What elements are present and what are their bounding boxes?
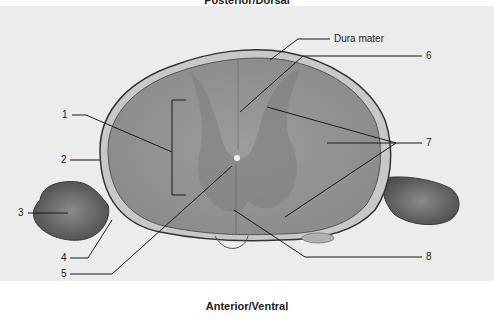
label-5: 5 — [61, 269, 67, 279]
label-1: 1 — [62, 110, 68, 120]
label-8: 8 — [426, 252, 432, 262]
central-canal — [234, 155, 240, 161]
right-dorsal-root-ganglion — [383, 177, 459, 225]
left-dorsal-root-ganglion — [33, 182, 108, 241]
label-3: 3 — [18, 208, 24, 218]
label-2: 2 — [61, 155, 67, 165]
label-4: 4 — [61, 253, 67, 263]
label-dura-mater: Dura mater — [334, 34, 384, 44]
label-7: 7 — [426, 138, 432, 148]
vessel-fragment — [302, 233, 334, 243]
label-6: 6 — [426, 51, 432, 61]
anterior-ventral-label: Anterior/Ventral — [0, 300, 494, 312]
posterior-dorsal-label: Posterior/Dorsal — [0, 0, 494, 6]
spinal-cord-diagram — [0, 0, 494, 323]
